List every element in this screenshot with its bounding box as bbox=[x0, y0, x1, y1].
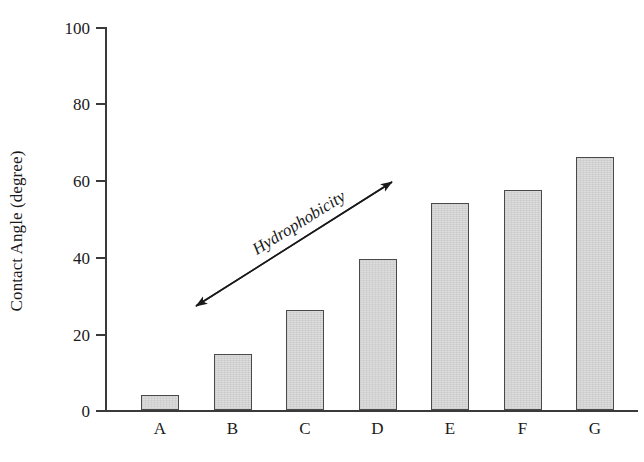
y-tick-label-20: 20 bbox=[40, 327, 90, 344]
y-tick-20 bbox=[96, 334, 106, 336]
bar-B[interactable] bbox=[214, 354, 252, 410]
x-tick-label-G: G bbox=[570, 419, 620, 439]
x-tick-label-E: E bbox=[425, 419, 475, 439]
y-tick-60 bbox=[96, 180, 106, 182]
x-tick-label-C: C bbox=[280, 419, 330, 439]
x-axis-line bbox=[105, 410, 638, 412]
bar-A[interactable] bbox=[141, 395, 179, 410]
x-tick-label-B: B bbox=[208, 419, 258, 439]
y-tick-label-0: 0 bbox=[40, 403, 90, 420]
y-tick-label-60: 60 bbox=[40, 173, 90, 190]
x-tick-label-A: A bbox=[135, 419, 185, 439]
contact-angle-bar-chart: Contact Angle (degree) 100 80 60 40 20 0… bbox=[0, 0, 644, 462]
bar-G[interactable] bbox=[576, 157, 614, 410]
y-axis-line bbox=[105, 27, 107, 412]
y-tick-80 bbox=[96, 103, 106, 105]
y-tick-label-100: 100 bbox=[40, 20, 90, 37]
y-tick-100 bbox=[96, 27, 106, 29]
x-tick-label-F: F bbox=[498, 419, 548, 439]
y-tick-40 bbox=[96, 257, 106, 259]
bar-C[interactable] bbox=[286, 310, 324, 410]
bar-F[interactable] bbox=[504, 190, 542, 410]
y-axis-title: Contact Angle (degree) bbox=[0, 0, 34, 462]
x-tick-label-D: D bbox=[353, 419, 403, 439]
y-tick-0 bbox=[96, 410, 106, 412]
bar-D[interactable] bbox=[359, 259, 397, 410]
bar-E[interactable] bbox=[431, 203, 469, 410]
y-tick-label-40: 40 bbox=[40, 250, 90, 267]
y-tick-label-80: 80 bbox=[40, 96, 90, 113]
